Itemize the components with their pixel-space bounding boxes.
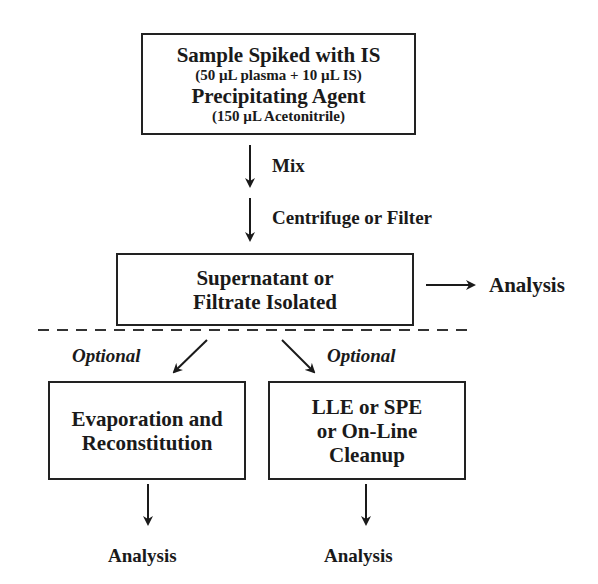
evaporation-box: Evaporation and Reconstitution [48,381,246,480]
sample-detail: (50 µL plasma + 10 µL IS) [195,67,362,84]
right-optional-label: Optional [327,345,396,367]
sample-box: Sample Spiked with IS (50 µL plasma + 10… [141,33,416,135]
agent-title: Precipitating Agent [191,84,365,108]
left-optional-label: Optional [72,345,141,367]
side-analysis-label: Analysis [489,273,565,298]
arrow-left-branch [174,340,207,372]
cleanup-box: LLE or SPE or On-Line Cleanup [268,381,466,480]
supernatant-box: Supernatant or Filtrate Isolated [116,253,414,326]
right-analysis-label: Analysis [324,545,393,567]
agent-detail: (150 µL Acetonitrile) [212,108,345,125]
step-centrifuge: Centrifuge or Filter [272,207,432,229]
left-analysis-label: Analysis [108,545,177,567]
step-mix: Mix [272,155,305,177]
sample-title: Sample Spiked with IS [177,43,381,67]
arrow-right-branch [282,340,314,372]
